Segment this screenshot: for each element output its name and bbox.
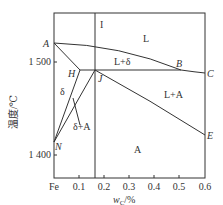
x-tick-0.2: 0.2	[98, 181, 111, 192]
phase-diagram: A H J B C N E I L L+δ L+A δ δ+A A 1 500 …	[0, 0, 223, 205]
label-I: I	[100, 19, 103, 30]
x-tick-0.3: 0.3	[123, 181, 136, 192]
point-H: H	[67, 68, 76, 79]
y-tick-1400: 1 400	[29, 149, 52, 160]
x-axis-label: wC/%	[113, 194, 135, 205]
point-J: J	[98, 73, 103, 84]
region-L-A: L+A	[164, 89, 184, 100]
point-B: B	[176, 58, 182, 69]
y-axis-label: 温度/℃	[7, 95, 19, 129]
point-N: N	[54, 141, 63, 152]
region-L-delta: L+δ	[114, 56, 131, 67]
region-A: A	[134, 144, 142, 155]
region-delta: δ	[60, 86, 65, 97]
x-tick-0.1: 0.1	[73, 181, 86, 192]
x-tick-0.6: 0.6	[199, 181, 212, 192]
region-delta-A: δ+A	[73, 121, 91, 132]
x-tick-Fe: Fe	[49, 181, 60, 192]
region-L: L	[143, 33, 149, 44]
x-tick-0.5: 0.5	[173, 181, 186, 192]
point-C: C	[207, 68, 214, 79]
point-E: E	[206, 130, 213, 141]
x-label-rest: /%	[124, 194, 135, 205]
solidus-AH	[54, 43, 80, 70]
y-tick-1500: 1 500	[29, 56, 52, 67]
x-tick-0.4: 0.4	[148, 181, 161, 192]
point-A: A	[42, 38, 50, 49]
line-JE	[95, 70, 205, 135]
